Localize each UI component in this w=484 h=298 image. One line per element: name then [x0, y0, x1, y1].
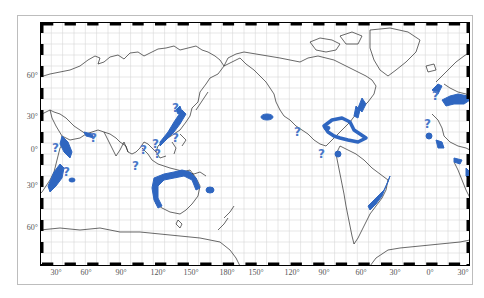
lat-label: 30°	[20, 112, 38, 121]
new-zealand	[218, 206, 234, 230]
lon-label: 150°	[183, 268, 198, 277]
lon-label: 30°	[50, 268, 61, 277]
japan	[196, 92, 208, 110]
question-mark-icon: ?	[90, 131, 97, 145]
question-mark-icon: ?	[172, 101, 179, 115]
lat-label: 30°	[20, 181, 38, 190]
lon-label: 0°	[426, 268, 433, 277]
arctic-islands	[310, 32, 362, 52]
question-mark-icon: ?	[172, 131, 179, 145]
red-sea-habitat	[60, 136, 72, 158]
question-mark-icon: ?	[294, 125, 301, 139]
lon-label: 150°	[248, 268, 263, 277]
greenland	[370, 28, 420, 76]
lon-label: 30°	[389, 268, 400, 277]
lon-label: 180°	[219, 268, 234, 277]
gulf-of-guinea-habitat	[454, 158, 462, 164]
lat-label: 0°	[20, 145, 38, 154]
lat-label: 60°	[20, 223, 38, 232]
iceland	[426, 64, 436, 72]
question-mark-icon: ?	[132, 159, 139, 173]
hawaii-habitat	[261, 114, 273, 120]
india	[104, 132, 128, 156]
gulf-of-mexico-habitat	[324, 118, 366, 142]
mediterranean-habitat	[442, 94, 470, 106]
world-map: ? ? ? ? ? ? ? ? ? ? ? ? ?	[40, 22, 470, 266]
question-mark-icon: ?	[52, 141, 59, 155]
lon-label: 90°	[115, 268, 126, 277]
question-mark-icon: ?	[318, 147, 325, 161]
europe	[436, 52, 470, 96]
question-mark-icon: ?	[424, 117, 431, 131]
east-africa-habitat	[48, 164, 64, 192]
question-mark-icon: ?	[154, 147, 161, 161]
west-africa-habitat	[436, 140, 444, 148]
question-mark-icon: ?	[63, 165, 70, 179]
africa-west	[432, 114, 470, 198]
lat-label: 60°	[20, 71, 38, 80]
lon-label: 90°	[318, 268, 329, 277]
canary-habitat	[426, 133, 432, 139]
caption-fragment	[0, 0, 484, 8]
brazil-coast-habitat	[368, 176, 390, 210]
lon-label: 120°	[150, 268, 165, 277]
eurasia-coast	[40, 46, 224, 154]
new-caledonia-habitat	[206, 187, 214, 193]
lon-label: 30°	[457, 268, 468, 277]
graticule	[40, 22, 470, 266]
question-mark-icon: ?	[140, 143, 147, 157]
lon-label: 60°	[80, 268, 91, 277]
pacific-mexico-habitat	[324, 126, 330, 130]
tasmania	[176, 220, 182, 228]
lon-label: 120°	[284, 268, 299, 277]
lon-label: 60°	[355, 268, 366, 277]
galapagos-habitat	[335, 151, 341, 157]
map-canvas: ? ? ? ? ? ? ? ? ? ? ? ? ?	[40, 22, 470, 266]
question-mark-icon: ?	[432, 89, 439, 103]
